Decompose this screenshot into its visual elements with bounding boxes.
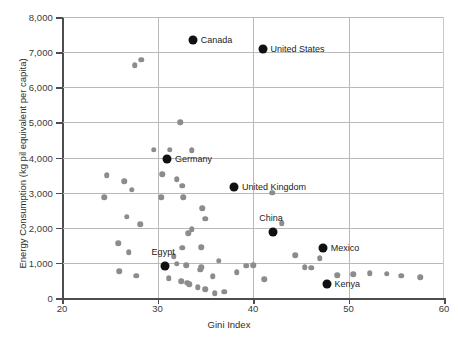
y-axis-tick bbox=[56, 52, 63, 54]
data-point[interactable] bbox=[186, 282, 192, 288]
data-point-label: Egypt bbox=[152, 247, 175, 257]
y-axis-tick-label: 0 bbox=[48, 293, 53, 304]
data-point[interactable] bbox=[166, 276, 172, 282]
data-point[interactable] bbox=[398, 273, 404, 279]
data-point[interactable] bbox=[116, 240, 122, 246]
y-axis-tick-label: 7,000 bbox=[29, 47, 53, 58]
data-point[interactable] bbox=[199, 245, 205, 251]
data-point[interactable] bbox=[302, 264, 308, 270]
data-point[interactable] bbox=[234, 269, 240, 275]
data-point-label: United Kingdom bbox=[242, 182, 306, 192]
data-point[interactable] bbox=[138, 221, 144, 227]
data-point[interactable] bbox=[179, 279, 185, 285]
gridline-vertical bbox=[253, 17, 254, 298]
data-point[interactable] bbox=[151, 147, 157, 153]
data-point[interactable] bbox=[417, 275, 423, 281]
data-point[interactable] bbox=[159, 194, 165, 200]
data-point[interactable] bbox=[174, 261, 180, 267]
data-point[interactable] bbox=[180, 245, 186, 251]
data-point[interactable] bbox=[210, 273, 216, 279]
data-point[interactable] bbox=[262, 276, 268, 282]
data-point[interactable] bbox=[189, 147, 195, 153]
y-axis-tick bbox=[56, 263, 63, 265]
data-point[interactable] bbox=[292, 253, 298, 259]
x-axis-tick-label: 40 bbox=[248, 303, 259, 314]
data-point[interactable] bbox=[317, 256, 323, 262]
data-point[interactable] bbox=[132, 63, 138, 69]
y-axis-title: Energy Consumption (kg pil equivalent pe… bbox=[17, 14, 28, 314]
y-axis-tick bbox=[56, 87, 63, 89]
gridline-vertical bbox=[349, 17, 350, 298]
y-axis-tick bbox=[56, 193, 63, 195]
data-point-label: China bbox=[259, 213, 283, 223]
data-point-highlighted[interactable] bbox=[258, 44, 267, 53]
data-point[interactable] bbox=[121, 179, 127, 185]
data-point[interactable] bbox=[104, 172, 110, 178]
data-point[interactable] bbox=[167, 147, 173, 153]
y-axis-tick-label: 3,000 bbox=[29, 187, 53, 198]
data-point-highlighted[interactable] bbox=[318, 243, 327, 252]
x-axis-tick-label: 50 bbox=[343, 303, 354, 314]
y-axis-tick-label: 4,000 bbox=[29, 152, 53, 163]
y-axis-tick-label: 6,000 bbox=[29, 82, 53, 93]
data-point[interactable] bbox=[117, 269, 123, 275]
data-point-label: Mexico bbox=[331, 243, 360, 253]
data-point[interactable] bbox=[351, 272, 357, 278]
data-point-label: Canada bbox=[201, 35, 233, 45]
data-point[interactable] bbox=[139, 57, 145, 63]
data-point[interactable] bbox=[183, 263, 189, 269]
data-point-highlighted[interactable] bbox=[163, 154, 172, 163]
data-point[interactable] bbox=[200, 205, 206, 211]
data-point[interactable] bbox=[134, 273, 140, 279]
data-point[interactable] bbox=[195, 285, 201, 291]
x-axis-tick-label: 60 bbox=[439, 303, 450, 314]
y-axis-tick bbox=[56, 17, 63, 19]
y-axis-tick bbox=[56, 228, 63, 230]
y-axis-tick bbox=[56, 158, 63, 160]
data-point[interactable] bbox=[160, 172, 166, 178]
data-point[interactable] bbox=[180, 183, 186, 189]
scatter-chart: 01,0002,0003,0004,0005,0006,0007,0008,00… bbox=[0, 0, 458, 339]
plot-right-edge bbox=[443, 17, 444, 298]
data-point[interactable] bbox=[309, 265, 315, 271]
data-point[interactable] bbox=[384, 271, 390, 277]
y-axis-tick-label: 8,000 bbox=[29, 12, 53, 23]
data-point[interactable] bbox=[129, 187, 135, 193]
data-point[interactable] bbox=[178, 120, 184, 126]
y-axis-tick-label: 1,000 bbox=[29, 257, 53, 268]
data-point-label: Germany bbox=[175, 154, 212, 164]
data-point[interactable] bbox=[198, 267, 204, 273]
data-point[interactable] bbox=[124, 214, 130, 220]
data-point-highlighted[interactable] bbox=[322, 279, 331, 288]
data-point[interactable] bbox=[174, 177, 180, 183]
x-axis-tick-label: 30 bbox=[152, 303, 163, 314]
data-point[interactable] bbox=[250, 263, 256, 269]
data-point-highlighted[interactable] bbox=[161, 262, 170, 271]
y-axis-tick-label: 2,000 bbox=[29, 222, 53, 233]
data-point[interactable] bbox=[334, 272, 340, 278]
data-point-label: Kenya bbox=[335, 279, 361, 289]
data-point[interactable] bbox=[216, 258, 222, 264]
data-point-highlighted[interactable] bbox=[188, 35, 197, 44]
x-axis-tick-label: 20 bbox=[57, 303, 68, 314]
data-point-highlighted[interactable] bbox=[229, 183, 238, 192]
data-point[interactable] bbox=[212, 291, 218, 297]
data-point[interactable] bbox=[203, 286, 209, 292]
y-axis-tick bbox=[56, 122, 63, 124]
data-point[interactable] bbox=[126, 250, 132, 256]
x-axis-title: Gini Index bbox=[0, 319, 458, 330]
data-point[interactable] bbox=[181, 194, 187, 200]
y-axis-tick-label: 5,000 bbox=[29, 117, 53, 128]
data-point[interactable] bbox=[244, 263, 250, 269]
data-point-highlighted[interactable] bbox=[269, 228, 278, 237]
data-point[interactable] bbox=[222, 289, 228, 295]
data-point[interactable] bbox=[101, 194, 107, 200]
data-point[interactable] bbox=[367, 271, 373, 277]
data-point[interactable] bbox=[185, 231, 191, 237]
plot-area bbox=[62, 17, 444, 298]
data-point-label: United States bbox=[271, 44, 325, 54]
data-point[interactable] bbox=[203, 216, 209, 222]
